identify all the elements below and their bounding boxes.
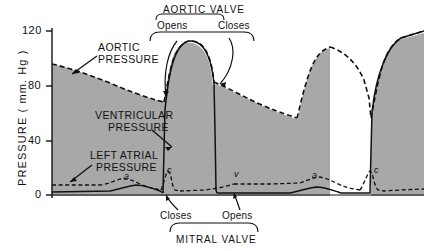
aortic-pressure-label-line2: PRESSURE — [98, 54, 159, 66]
aortic-pressure-label-line1: AORTIC — [98, 42, 140, 54]
y-tick-0: 0 — [35, 188, 42, 200]
figure-root: 120 80 40 0 PRESSURE ( mm. Hg ) AORTIC P… — [0, 0, 424, 251]
pressure-chart-svg — [0, 0, 424, 251]
wave-mark-v-1: v — [234, 169, 239, 179]
y-tick-120: 120 — [22, 24, 42, 36]
left-atrial-pressure-label-line1: LEFT ATRIAL — [90, 150, 158, 162]
y-axis-title: PRESSURE ( mm. Hg ) — [16, 50, 28, 186]
ventricular-pressure-label-line1: VENTRICULAR — [95, 110, 174, 122]
aortic-valve-closes-label: Closes — [218, 20, 250, 31]
mitral-valve-title: MITRAL VALVE — [176, 234, 257, 245]
wave-mark-c-1: c — [167, 165, 172, 175]
aortic-valve-title: AORTIC VALVE — [163, 4, 245, 15]
aortic-valve-opens-label: Opens — [157, 20, 187, 31]
wave-mark-c-2: c — [374, 165, 379, 175]
y-tick-40: 40 — [28, 134, 41, 146]
ventricular-pressure-label-line2: PRESSURE — [108, 122, 169, 134]
y-tick-80: 80 — [28, 79, 41, 91]
mitral-valve-opens-label: Opens — [222, 210, 252, 221]
wave-mark-a-1: a — [124, 171, 129, 181]
mitral-valve-closes-label: Closes — [160, 210, 192, 221]
wave-mark-a-2: a — [312, 170, 317, 180]
